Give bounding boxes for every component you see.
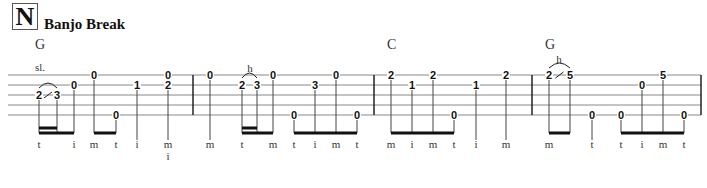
finger-label: m [206, 138, 215, 150]
finger-label: m [332, 138, 341, 150]
fret-number: 2 [503, 69, 509, 81]
finger-label-secondary: i [166, 150, 169, 162]
finger-label: i [640, 138, 643, 150]
fret-number: 2 [165, 79, 171, 91]
beam-level-1 [94, 132, 116, 135]
finger-label: m [545, 138, 554, 150]
fret-number: 2 [388, 69, 394, 81]
finger-label: i [135, 138, 138, 150]
finger-label: i [410, 138, 413, 150]
fret-number: 0 [270, 69, 276, 81]
fret-number: 0 [451, 109, 457, 121]
fret-number: 0 [291, 109, 297, 121]
technique-label: sl. [35, 61, 45, 73]
fret-number: 0 [207, 69, 213, 81]
finger-label: m [164, 138, 173, 150]
finger-label: m [90, 138, 99, 150]
fret-number: 2 [430, 69, 436, 81]
technique-label: h [247, 62, 253, 74]
finger-label: i [313, 138, 316, 150]
fret-number: 0 [71, 79, 77, 91]
fret-number: 0 [681, 109, 687, 121]
fret-number: 3 [254, 79, 260, 91]
fret-number: 1 [473, 79, 479, 91]
finger-label: i [474, 138, 477, 150]
fret-number: 2 [546, 69, 552, 81]
fret-number: 0 [354, 109, 360, 121]
finger-label: t [682, 138, 685, 150]
beam-level-2 [39, 127, 57, 130]
beam-level-2 [242, 127, 257, 130]
fret-number: 3 [312, 79, 318, 91]
finger-label: t [37, 138, 40, 150]
fret-number: 1 [409, 79, 415, 91]
beam-level-1 [242, 132, 273, 135]
fret-number: 0 [113, 109, 119, 121]
finger-label: t [452, 138, 455, 150]
finger-label: t [114, 138, 117, 150]
finger-label: t [355, 138, 358, 150]
finger-label: m [502, 138, 511, 150]
beam-level-1 [549, 132, 570, 135]
beam-level-1 [294, 132, 357, 135]
finger-label: m [269, 138, 278, 150]
fret-number: 3 [54, 89, 60, 101]
finger-label: t [292, 138, 295, 150]
fret-number: 0 [91, 69, 97, 81]
finger-label: m [659, 138, 668, 150]
fret-number: 5 [567, 69, 573, 81]
finger-label: m [429, 138, 438, 150]
fret-number: 1 [134, 79, 140, 91]
finger-label: m [387, 138, 396, 150]
fret-number: 2 [239, 79, 245, 91]
beam-level-1 [621, 132, 684, 135]
beam-level-1 [391, 132, 454, 135]
fret-number: 0 [639, 79, 645, 91]
fret-number: 0 [618, 109, 624, 121]
finger-label: t [619, 138, 622, 150]
technique-label: h [556, 53, 562, 65]
finger-label: t [590, 138, 593, 150]
banjo-tablature-staff: 2t30i0m0t1i02mi0m2t30m0t3i0m0t2m1i2m0t1i… [0, 0, 707, 188]
beam-level-1 [39, 132, 74, 135]
fret-number: 2 [36, 89, 42, 101]
fret-number: 0 [589, 109, 595, 121]
fret-number: 0 [333, 69, 339, 81]
fret-number: 5 [660, 69, 666, 81]
finger-label: t [240, 138, 243, 150]
finger-label: i [72, 138, 75, 150]
